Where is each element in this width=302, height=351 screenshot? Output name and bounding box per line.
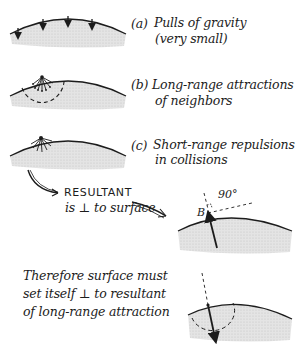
resultant-subtitle: is ⊥ to surface bbox=[65, 200, 156, 215]
conclusion-surface bbox=[188, 273, 292, 342]
panel-a-surface bbox=[10, 16, 126, 48]
panel-a-tag: (a) bbox=[131, 16, 148, 31]
conclusion-line-2: set itself ⊥ to resultant bbox=[23, 286, 166, 301]
curved-pointer-arrow bbox=[28, 170, 58, 196]
panel-b-subtitle: of neighbors bbox=[155, 93, 232, 108]
angle-90-label: 90° bbox=[218, 188, 238, 201]
panel-c-tag: (c) bbox=[131, 138, 147, 153]
panel-c-subtitle: in collisions bbox=[155, 152, 227, 167]
panel-c-surface bbox=[10, 136, 126, 170]
resultant-title: RESULTANT bbox=[64, 186, 132, 199]
point-b-label: B bbox=[197, 206, 205, 219]
panel-b-title: Long-range attractions bbox=[152, 77, 294, 92]
conclusion-line-3: of long-range attraction bbox=[23, 304, 170, 319]
conclusion-line-1: Therefore surface must bbox=[23, 268, 168, 283]
panel-a-title: Pulls of gravity bbox=[154, 15, 246, 30]
resultant-surface bbox=[178, 193, 292, 254]
panel-a-subtitle: (very small) bbox=[155, 31, 228, 46]
panel-b-surface bbox=[10, 75, 126, 109]
panel-b-tag: (b) bbox=[131, 77, 148, 92]
surface-tension-diagram: (a) Pulls of gravity (very small) (b) Lo… bbox=[0, 0, 302, 351]
panel-c-title: Short-range repulsions bbox=[153, 137, 295, 152]
